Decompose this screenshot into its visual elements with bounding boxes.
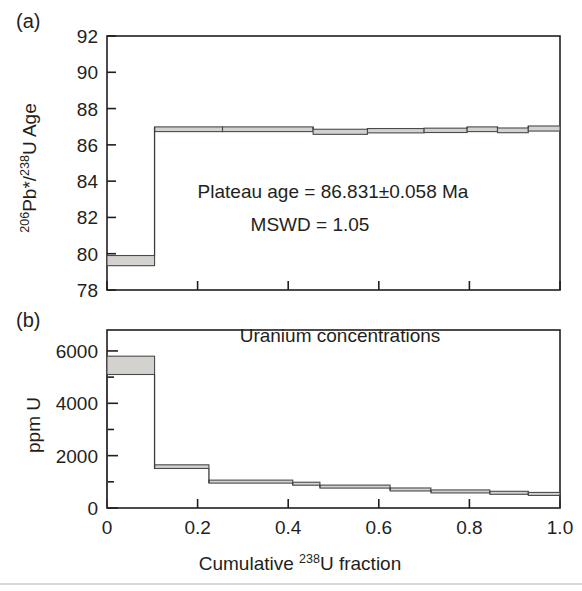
svg-text:206Pb*/238U Age: 206Pb*/238U Age [18,103,40,232]
step-box [424,128,467,132]
x-title-sup-238: 238 [299,552,320,566]
step-box [320,485,390,488]
x-title-tail: U fraction [320,553,401,574]
step-box [155,127,223,132]
step-box [107,356,155,374]
step-box [431,490,490,493]
step-box [107,256,155,266]
panel_a-plot-frame [107,36,560,290]
panel-b-chart-title: Uranium concentrations [240,325,441,346]
y-title-main: Pb*/ [19,175,40,212]
mswd-annotation: MSWD = 1.05 [251,214,370,235]
ppm-u-label: ppm U [23,397,44,453]
footer-divider [0,583,582,585]
step-box [367,129,424,133]
plateau-age-annotation: Plateau age = 86.831±0.058 Ma [198,181,469,202]
step-box [467,127,497,132]
step-box [313,129,367,134]
figure-container: (a) 206Pb*/238U Age 9290888684828078 Pla… [0,0,582,591]
x-title-main: Cumulative [199,553,299,574]
y-title-sup-206: 206 [18,212,32,233]
panel_a-y-tick-label: 82 [77,207,98,228]
panel_b-x-tick-label: 0.6 [366,517,392,538]
y-title-tail: U Age [19,103,40,155]
panel_b-y-tick-label: 6000 [56,341,98,362]
panel_b-x-tick-label: 0 [102,517,113,538]
panel-a-plot-area: 9290888684828078 [77,26,560,301]
panel_a-y-tick-label: 86 [77,135,98,156]
panel_b-x-tick-label: 0.8 [456,517,482,538]
panel-a-y-axis-title: 206Pb*/238U Age [18,103,40,232]
step-heating-figure: (a) 206Pb*/238U Age 9290888684828078 Pla… [0,0,582,591]
panel_b-y-tick-label: 0 [87,498,98,519]
panel_b-y-tick-label: 2000 [56,446,98,467]
panel_b-x-tick-label: 0.2 [184,517,210,538]
step-box [155,465,209,469]
panel_a-y-tick-label: 84 [77,171,99,192]
step-box [497,128,528,133]
panel_b-x-tick-label: 1.0 [547,517,573,538]
panel_a-y-tick-label: 88 [77,99,98,120]
x-axis-title: Cumulative 238U fraction [199,552,402,574]
panel_b-plot-frame [107,330,560,508]
step-box [528,492,560,495]
y-title-sup-238: 238 [18,155,32,176]
panel-b-label: (b) [16,309,40,331]
panel-b-plot-area: 600040002000000.20.40.60.81.0 [56,330,573,538]
step-box [209,480,293,483]
panel_b-y-tick-label: 4000 [56,393,98,414]
panel-a-label: (a) [16,10,40,32]
panel_a-y-tick-label: 92 [77,26,98,47]
step-box [223,127,314,132]
panel_b-x-tick-label: 0.4 [275,517,302,538]
step-box [390,488,431,491]
step-box [490,491,529,494]
panel_a-y-tick-label: 78 [77,280,98,301]
step-box [293,482,320,485]
panel_a-y-tick-label: 90 [77,62,98,83]
step-box [528,126,560,131]
panel_a-y-tick-label: 80 [77,244,98,265]
panel-b-y-axis-title: ppm U [23,397,44,453]
